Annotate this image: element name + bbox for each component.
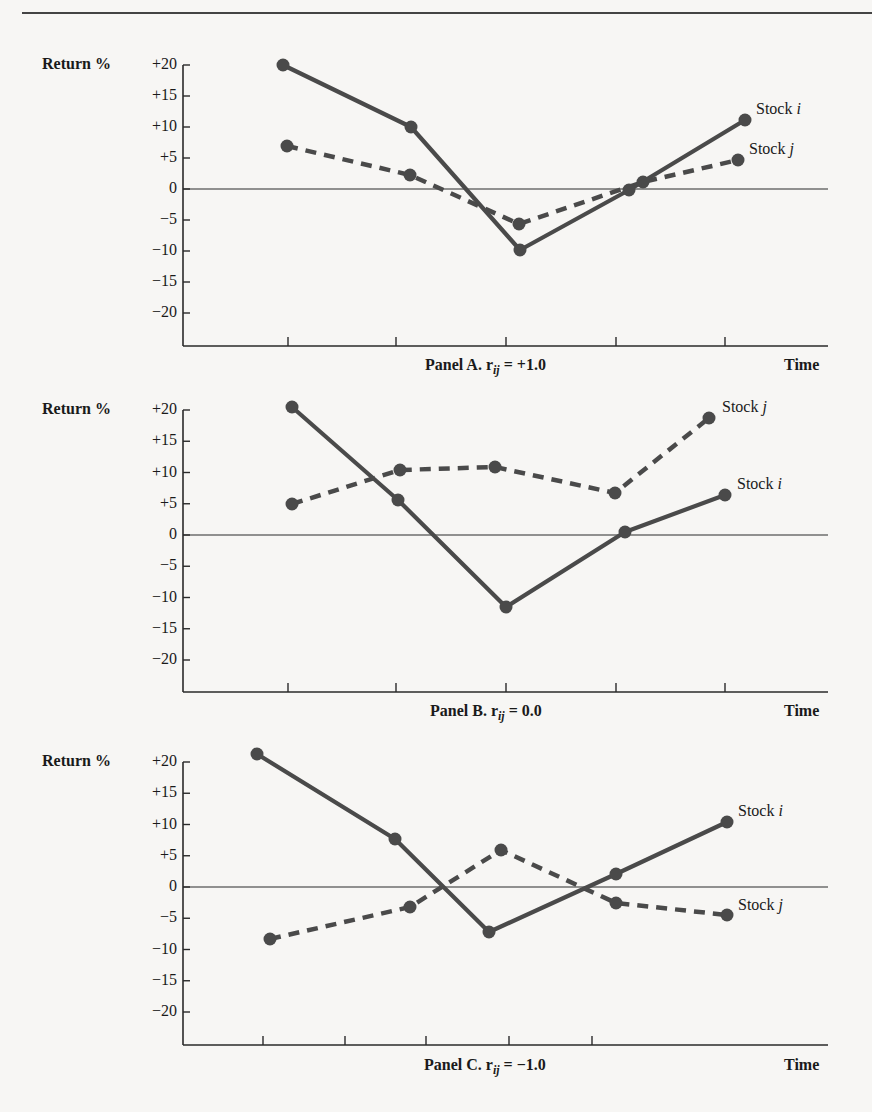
data-point-stock-i [483, 926, 496, 939]
data-point-stock-j [281, 140, 294, 153]
data-point-stock-i [286, 401, 299, 414]
panel-caption: Panel A. rij = +1.0 [425, 356, 546, 378]
series-line-stock-j [287, 146, 738, 224]
data-point-stock-j [732, 154, 745, 167]
panel-caption: Panel B. rij = 0.0 [430, 702, 542, 724]
series-label-stock-i: Stock i [738, 802, 783, 820]
series-label-stock-i: Stock i [756, 100, 801, 118]
plot-area [0, 746, 872, 1096]
x-axis-title: Time [784, 356, 819, 374]
data-point-stock-j [489, 461, 502, 474]
data-point-stock-j [513, 218, 526, 231]
chart-panel-a: Return %+20+15+10+50−5−10−15−20Stock iSt… [0, 50, 872, 400]
data-point-stock-j [404, 169, 417, 182]
data-point-stock-j [404, 901, 417, 914]
data-point-stock-j [721, 909, 734, 922]
series-label-stock-i: Stock i [737, 475, 782, 493]
data-point-stock-j [609, 487, 622, 500]
data-point-stock-i [514, 244, 527, 257]
data-point-stock-i [277, 59, 290, 72]
data-point-stock-i [739, 114, 752, 127]
series-label-stock-j: Stock j [722, 398, 767, 416]
data-point-stock-i [721, 816, 734, 829]
data-point-stock-j [394, 464, 407, 477]
series-line-stock-i [292, 407, 725, 607]
data-point-stock-j [495, 844, 508, 857]
data-point-stock-i [500, 601, 513, 614]
page-top-rule [22, 12, 872, 14]
data-point-stock-i [623, 184, 636, 197]
chart-panel-b: Return %+20+15+10+50−5−10−15−20Stock iSt… [0, 398, 872, 748]
data-point-stock-j [703, 412, 716, 425]
data-point-stock-i [251, 748, 264, 761]
data-point-stock-j [264, 933, 277, 946]
plot-area [0, 398, 872, 748]
data-point-stock-i [405, 121, 418, 134]
series-label-stock-j: Stock j [749, 140, 794, 158]
data-point-stock-i [610, 868, 623, 881]
x-axis-title: Time [784, 702, 819, 720]
series-label-stock-j: Stock j [738, 896, 783, 914]
data-point-stock-i [719, 489, 732, 502]
data-point-stock-i [389, 833, 402, 846]
data-point-stock-i [392, 494, 405, 507]
x-axis-title: Time [784, 1056, 819, 1074]
chart-panel-c: Return %+20+15+10+50−5−10−15−20Stock iSt… [0, 746, 872, 1096]
data-point-stock-i [619, 526, 632, 539]
plot-area [0, 50, 872, 400]
panel-caption: Panel C. rij = −1.0 [424, 1056, 546, 1078]
data-point-stock-j [286, 498, 299, 511]
data-point-stock-j [610, 897, 623, 910]
